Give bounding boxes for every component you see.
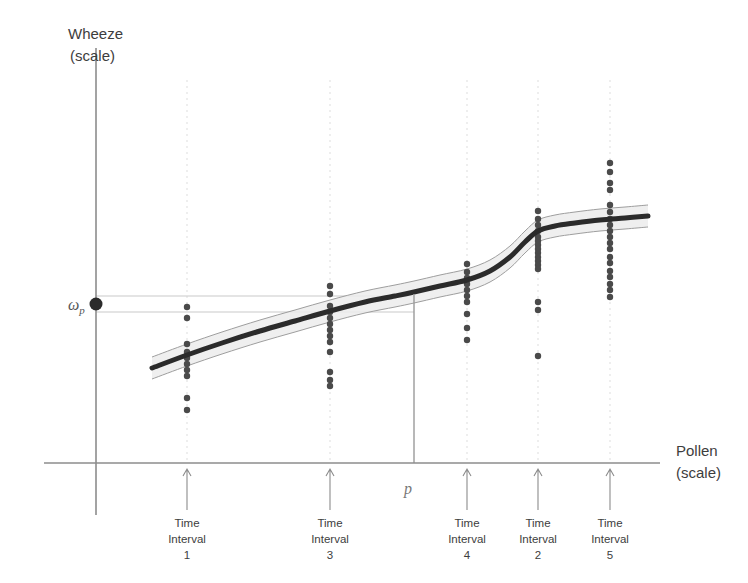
y-axis-label-line1: Wheeze <box>68 25 123 42</box>
tick-label-5-line2: Interval <box>591 533 629 545</box>
tick-label-1-line3: 1 <box>184 549 190 561</box>
data-point <box>464 261 470 267</box>
data-point <box>327 283 333 289</box>
tick-label-2-line3: 3 <box>327 549 333 561</box>
data-point <box>607 169 613 175</box>
y-axis-label-line2: (scale) <box>70 47 115 64</box>
data-point <box>607 260 613 266</box>
p-label: p <box>403 480 412 498</box>
omega-glyph: ω <box>68 296 79 313</box>
tick-arrow-1 <box>183 469 191 510</box>
data-point <box>607 228 613 234</box>
data-point <box>464 287 470 293</box>
data-point <box>327 369 333 375</box>
data-point <box>607 234 613 240</box>
tick-label-3-line3: 4 <box>464 549 471 561</box>
data-point <box>535 353 541 359</box>
data-point <box>607 160 613 166</box>
data-point <box>607 187 613 193</box>
data-point <box>184 361 190 367</box>
wheeze-vs-pollen-chart: TimeInterval1TimeInterval3TimeInterval4T… <box>0 0 748 583</box>
data-point <box>607 294 613 300</box>
tick-label-4-line2: Interval <box>519 533 557 545</box>
omega-p-marker <box>90 298 103 311</box>
data-point <box>607 287 613 293</box>
tick-arrow-5 <box>606 469 614 510</box>
data-point <box>327 333 333 339</box>
data-point <box>607 268 613 274</box>
data-point <box>607 240 613 246</box>
gridlines <box>187 80 610 463</box>
data-point <box>464 337 470 343</box>
tick-arrow-2 <box>326 469 334 510</box>
data-point <box>327 383 333 389</box>
omega-p-label: ωp <box>68 296 85 316</box>
x-axis-label-line2: (scale) <box>676 464 721 481</box>
data-point <box>327 339 333 345</box>
data-point <box>184 367 190 373</box>
x-axis-label-line1: Pollen <box>676 442 718 459</box>
tick-label-2-line2: Interval <box>311 533 349 545</box>
data-point <box>464 269 470 275</box>
data-point <box>464 325 470 331</box>
data-point <box>184 304 190 310</box>
tick-label-4-line3: 2 <box>535 549 541 561</box>
data-point <box>184 407 190 413</box>
tick-label-5-line3: 5 <box>607 549 613 561</box>
tick-label-2-line1: Time <box>317 517 342 529</box>
tick-label-3-line2: Interval <box>448 533 486 545</box>
omega-subscript: p <box>78 304 85 316</box>
data-point <box>327 291 333 297</box>
x-axis-ticks: TimeInterval1TimeInterval3TimeInterval4T… <box>168 469 629 561</box>
data-point <box>535 222 541 228</box>
data-point <box>607 209 613 215</box>
data-point <box>184 341 190 347</box>
data-point <box>327 327 333 333</box>
tick-label-1-line1: Time <box>174 517 199 529</box>
tick-arrow-4 <box>534 469 542 510</box>
data-point <box>327 321 333 327</box>
data-point <box>184 373 190 379</box>
data-point <box>327 377 333 383</box>
chart-figure: TimeInterval1TimeInterval3TimeInterval4T… <box>0 0 748 583</box>
data-point <box>607 274 613 280</box>
data-point <box>607 281 613 287</box>
data-point <box>535 208 541 214</box>
data-point <box>607 246 613 252</box>
data-point <box>607 180 613 186</box>
tick-label-3-line1: Time <box>454 517 479 529</box>
tick-label-1-line2: Interval <box>168 533 206 545</box>
data-point <box>464 293 470 299</box>
data-point <box>184 315 190 321</box>
data-point <box>464 299 470 305</box>
data-point <box>535 216 541 222</box>
tick-arrow-3 <box>463 469 471 510</box>
data-point <box>327 315 333 321</box>
data-point <box>607 254 613 260</box>
data-point <box>464 311 470 317</box>
tick-label-5-line1: Time <box>597 517 622 529</box>
data-point <box>327 349 333 355</box>
data-point <box>607 222 613 228</box>
data-point <box>535 266 541 272</box>
data-point <box>535 299 541 305</box>
data-point <box>184 395 190 401</box>
tick-label-4-line1: Time <box>525 517 550 529</box>
data-point <box>535 307 541 313</box>
data-point <box>607 202 613 208</box>
